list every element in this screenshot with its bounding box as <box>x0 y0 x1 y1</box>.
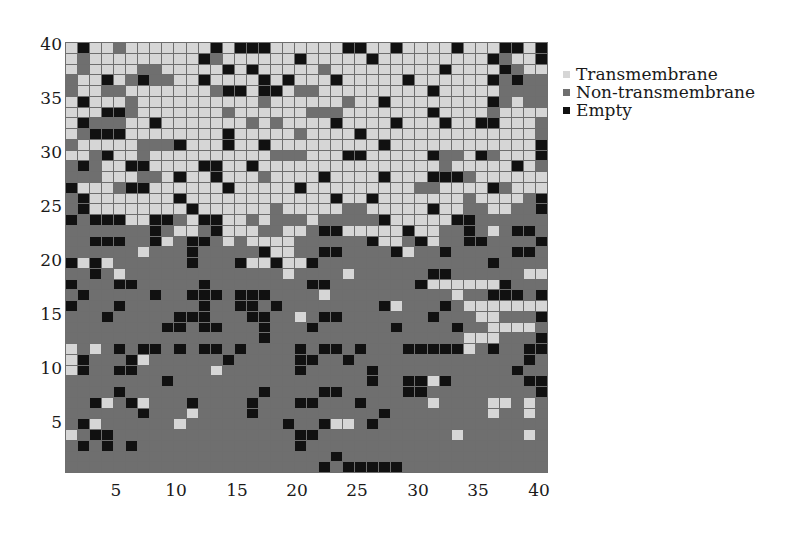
grid-cell <box>223 323 234 333</box>
grid-cell <box>174 430 185 440</box>
grid-cell <box>343 323 354 333</box>
grid-cell <box>138 65 149 75</box>
grid-cell <box>138 247 149 257</box>
grid-cell <box>512 419 523 429</box>
grid-cell <box>174 441 185 451</box>
grid-cell <box>488 366 499 376</box>
grid-cell <box>199 237 210 247</box>
grid-cell <box>235 269 246 279</box>
grid-cell <box>536 398 547 408</box>
grid-cell <box>162 452 173 462</box>
grid-cell <box>367 97 378 107</box>
grid-cell <box>440 247 451 257</box>
grid-cell <box>367 409 378 419</box>
grid-cell <box>536 452 547 462</box>
grid-cell <box>271 215 282 225</box>
grid-cell <box>138 344 149 354</box>
grid-cell <box>319 409 330 419</box>
grid-cell <box>259 344 270 354</box>
grid-cell <box>428 323 439 333</box>
grid-cell <box>391 398 402 408</box>
grid-cell <box>428 419 439 429</box>
grid-cell <box>114 194 125 204</box>
grid-cell <box>524 301 535 311</box>
grid-cell <box>78 258 89 268</box>
grid-cell <box>452 65 463 75</box>
grid-cell <box>66 333 77 343</box>
grid-cell <box>114 323 125 333</box>
grid-cell <box>78 65 89 75</box>
grid-cell <box>162 333 173 343</box>
grid-cell <box>428 194 439 204</box>
grid-cell <box>66 237 77 247</box>
grid-cell <box>199 355 210 365</box>
grid-cell <box>488 151 499 161</box>
grid-cell <box>102 43 113 53</box>
grid-cell <box>524 419 535 429</box>
grid-cell <box>162 43 173 53</box>
grid-cell <box>536 97 547 107</box>
grid-cell <box>452 366 463 376</box>
grid-cell <box>235 409 246 419</box>
grid-cell <box>476 140 487 150</box>
grid-cell <box>247 290 258 300</box>
grid-cell <box>512 183 523 193</box>
grid-cell <box>162 387 173 397</box>
grid-cell <box>464 161 475 171</box>
grid-cell <box>500 387 511 397</box>
grid-cell <box>211 344 222 354</box>
grid-cell <box>428 226 439 236</box>
grid-cell <box>295 430 306 440</box>
x-tick-5: 5 <box>96 480 136 500</box>
grid-cell <box>102 258 113 268</box>
grid-cell <box>440 129 451 139</box>
grid-cell <box>355 376 366 386</box>
grid-cell <box>295 86 306 96</box>
grid-cell <box>102 398 113 408</box>
grid-cell <box>295 215 306 225</box>
grid-cell <box>138 398 149 408</box>
grid-cell <box>428 65 439 75</box>
grid-cell <box>114 280 125 290</box>
grid-cell <box>440 204 451 214</box>
grid-cell <box>476 333 487 343</box>
grid-cell <box>150 118 161 128</box>
grid-cell <box>66 409 77 419</box>
grid-cell <box>247 462 258 472</box>
grid-cell <box>199 86 210 96</box>
grid-cell <box>199 452 210 462</box>
grid-cell <box>150 183 161 193</box>
grid-cell <box>355 387 366 397</box>
grid-cell <box>66 258 77 268</box>
grid-cell <box>138 140 149 150</box>
grid-cell <box>247 118 258 128</box>
grid-cell <box>162 280 173 290</box>
grid-cell <box>476 366 487 376</box>
grid-cell <box>512 204 523 214</box>
grid-cell <box>235 333 246 343</box>
grid-cell <box>271 247 282 257</box>
grid-cell <box>114 376 125 386</box>
grid-cell <box>90 237 101 247</box>
grid-cell <box>343 344 354 354</box>
grid-cell <box>536 129 547 139</box>
grid-cell <box>138 301 149 311</box>
grid-cell <box>307 312 318 322</box>
grid-cell <box>174 258 185 268</box>
grid-cell <box>379 430 390 440</box>
grid-cell <box>78 43 89 53</box>
grid-cell <box>247 151 258 161</box>
grid-cell <box>512 43 523 53</box>
grid-cell <box>211 118 222 128</box>
grid-cell <box>355 247 366 257</box>
grid-cell <box>379 355 390 365</box>
grid-cell <box>319 452 330 462</box>
grid-cell <box>500 441 511 451</box>
grid-cell <box>271 441 282 451</box>
grid-cell <box>295 387 306 397</box>
grid-cell <box>283 419 294 429</box>
grid-cell <box>343 140 354 150</box>
grid-cell <box>464 280 475 290</box>
grid-cell <box>464 247 475 257</box>
grid-cell <box>476 387 487 397</box>
